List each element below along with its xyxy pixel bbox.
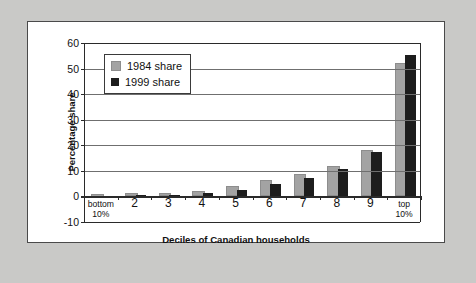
legend-label-1984: 1984 share [127, 60, 182, 72]
x-tick-label: 7 [286, 199, 320, 209]
y-tick-mark-20 [81, 145, 85, 146]
y-tick-label-60: 60 [67, 37, 79, 49]
y-tick-label-50: 50 [67, 63, 79, 75]
bar-1999-share [304, 178, 314, 197]
y-tick-mark-10 [81, 171, 85, 172]
legend-item-1999: 1999 share [111, 75, 182, 89]
gridline-20 [85, 145, 420, 146]
bar-chart: Percentage share -100102030405060 bottom… [28, 22, 444, 242]
x-tick-mark [421, 196, 422, 200]
bar-group [321, 43, 355, 222]
y-tick-label--10: -10 [64, 216, 79, 228]
bar-group [254, 43, 288, 222]
y-tick-label-30: 30 [67, 114, 79, 126]
gridline-10 [85, 171, 420, 172]
x-tick-label: 5 [219, 199, 253, 209]
y-tick-label-0: 0 [73, 190, 79, 202]
bar-group [355, 43, 389, 222]
x-tick-label: top10% [387, 200, 421, 219]
bar-1999-share [405, 55, 415, 197]
x-tick-label: 2 [118, 199, 152, 209]
x-tick-label: 6 [253, 199, 287, 209]
y-tick-label-10: 10 [67, 165, 79, 177]
y-tick-label-20: 20 [67, 139, 79, 151]
y-tick-mark--10 [81, 222, 85, 223]
bar-group [220, 43, 254, 222]
x-tick-label: bottom10% [84, 200, 118, 219]
y-axis-title: Percentage share [66, 92, 77, 171]
y-tick-mark-60 [81, 43, 85, 44]
legend-item-1984: 1984 share [111, 59, 182, 73]
legend-label-1999: 1999 share [125, 76, 180, 88]
bar-group [186, 43, 220, 222]
bar-1999-share [371, 152, 381, 196]
chart-legend: 1984 share 1999 share [104, 54, 191, 94]
bar-group [388, 43, 422, 222]
bar-1999-share [237, 190, 247, 197]
legend-swatch-1999-icon [111, 78, 119, 86]
x-axis-title: Deciles of Canadian households [28, 234, 444, 245]
y-tick-mark-40 [81, 94, 85, 95]
legend-swatch-1984-icon [111, 61, 121, 71]
x-tick-label: 3 [151, 199, 185, 209]
x-tick-label: 8 [320, 199, 354, 209]
x-tick-label: 9 [354, 199, 388, 209]
y-tick-mark-50 [81, 69, 85, 70]
y-tick-mark-30 [81, 120, 85, 121]
figure-panel: Percentage share -100102030405060 bottom… [27, 21, 445, 243]
bar-1999-share [270, 184, 280, 196]
gridline-60 [85, 43, 420, 44]
bar-1999-share [338, 169, 348, 196]
x-tick-label: 4 [185, 199, 219, 209]
y-tick-label-40: 40 [67, 88, 79, 100]
gridline-40 [85, 94, 420, 95]
bar-group [287, 43, 321, 222]
gridline--10 [85, 222, 420, 223]
gridline-30 [85, 120, 420, 121]
